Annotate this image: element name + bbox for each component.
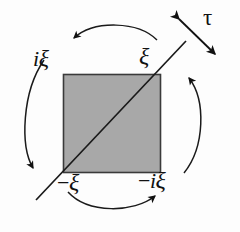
label-neg-i-xi-sign: −: [138, 168, 150, 193]
label-i-xi-symbol: ξ: [39, 45, 49, 71]
figure-container: iξ ξ −ξ −iξ τ: [0, 0, 240, 232]
label-neg-xi-symbol: ξ: [69, 169, 79, 195]
label-xi-symbol: ξ: [139, 43, 149, 69]
arc-right-rotation: [184, 78, 201, 173]
label-tau: τ: [203, 6, 212, 29]
diagram-canvas: [0, 0, 240, 232]
label-i-xi: iξ: [33, 46, 48, 70]
arc-top-rotation: [74, 25, 157, 40]
shaded-square: [64, 75, 161, 173]
label-neg-xi: −ξ: [57, 170, 79, 194]
label-neg-xi-sign: −: [57, 170, 69, 195]
label-neg-i-xi: −iξ: [138, 168, 165, 192]
arc-bottom-rotation: [68, 192, 155, 209]
arc-left-rotation: [25, 60, 44, 168]
label-xi: ξ: [139, 44, 149, 68]
label-neg-i-xi-symbol: ξ: [156, 167, 166, 193]
